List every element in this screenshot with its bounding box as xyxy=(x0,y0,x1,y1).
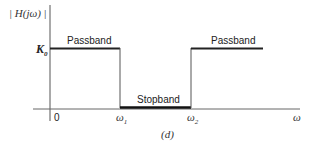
stopband-label: Stopband xyxy=(137,94,180,105)
figure-caption: (d) xyxy=(161,128,174,141)
tick-label-omega1: ω1 xyxy=(116,111,127,126)
tick-label-zero: 0 xyxy=(54,112,60,123)
tick-label-omega2: ω2 xyxy=(187,111,199,126)
level-label: K0 xyxy=(35,42,48,58)
passband-right-label: Passband xyxy=(211,35,255,46)
x-axis-label: ω xyxy=(293,111,301,123)
y-axis-label: | H(jω) | xyxy=(9,7,47,20)
bandstop-filter-diagram: | H(jω) | K0 Passband Stopband Passband … xyxy=(0,0,309,151)
passband-left-label: Passband xyxy=(67,35,111,46)
